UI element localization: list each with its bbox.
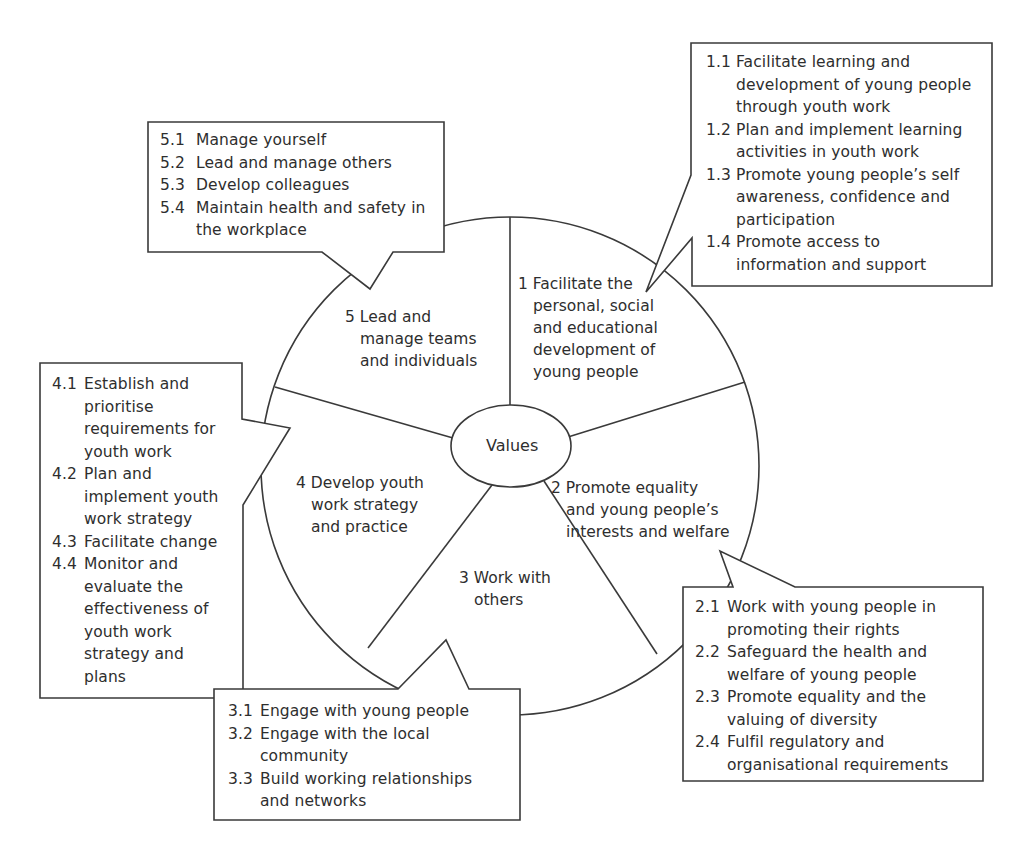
- segment-2-label: 2 Promote equality and young people’s in…: [551, 477, 730, 543]
- list-item: 1.3 Promote young people’s selfawareness…: [706, 164, 971, 232]
- list-item: 1.1 Facilitate learning anddevelopment o…: [706, 51, 971, 119]
- callout-3-text: 3.1 Engage with young people 3.2 Engage …: [228, 700, 472, 813]
- list-item: 2.2 Safeguard the health andwelfare of y…: [695, 641, 948, 686]
- callout-4-text: 4.1 Establish andprioritiserequirements …: [52, 373, 218, 688]
- segment-1-label: 1 Facilitate the personal, social and ed…: [518, 273, 658, 383]
- callout-5-text: 5.1 Manage yourself 5.2 Lead and manage …: [160, 129, 426, 242]
- list-item: 4.3 Facilitate change: [52, 531, 218, 554]
- list-item: 2.1 Work with young people inpromoting t…: [695, 596, 948, 641]
- list-item: 4.4 Monitor andevaluate theeffectiveness…: [52, 553, 218, 688]
- list-item: 5.3 Develop colleagues: [160, 174, 426, 197]
- callout-1-text: 1.1 Facilitate learning anddevelopment o…: [706, 51, 971, 276]
- list-item: 3.2 Engage with the localcommunity: [228, 723, 472, 768]
- list-item: 5.4 Maintain health and safety inthe wor…: [160, 197, 426, 242]
- segment-4-label: 4 Develop youth work strategy and practi…: [296, 472, 424, 538]
- list-item: 3.1 Engage with young people: [228, 700, 472, 723]
- list-item: 5.1 Manage yourself: [160, 129, 426, 152]
- list-item: 4.1 Establish andprioritiserequirements …: [52, 373, 218, 463]
- list-item: 2.3 Promote equality and thevaluing of d…: [695, 686, 948, 731]
- list-item: 4.2 Plan andimplement youthwork strategy: [52, 463, 218, 531]
- list-item: 3.3 Build working relationshipsand netwo…: [228, 768, 472, 813]
- list-item: 1.4 Promote access toinformation and sup…: [706, 231, 971, 276]
- list-item: 5.2 Lead and manage others: [160, 152, 426, 175]
- list-item: 1.2 Plan and implement learningactivitie…: [706, 119, 971, 164]
- segment-3-label: 3 Work with others: [459, 567, 551, 611]
- callout-2-text: 2.1 Work with young people inpromoting t…: [695, 596, 948, 776]
- segment-5-label: 5 Lead and manage teams and individuals: [345, 306, 477, 372]
- list-item: 2.4 Fulfil regulatory andorganisational …: [695, 731, 948, 776]
- values-label: Values: [486, 436, 538, 455]
